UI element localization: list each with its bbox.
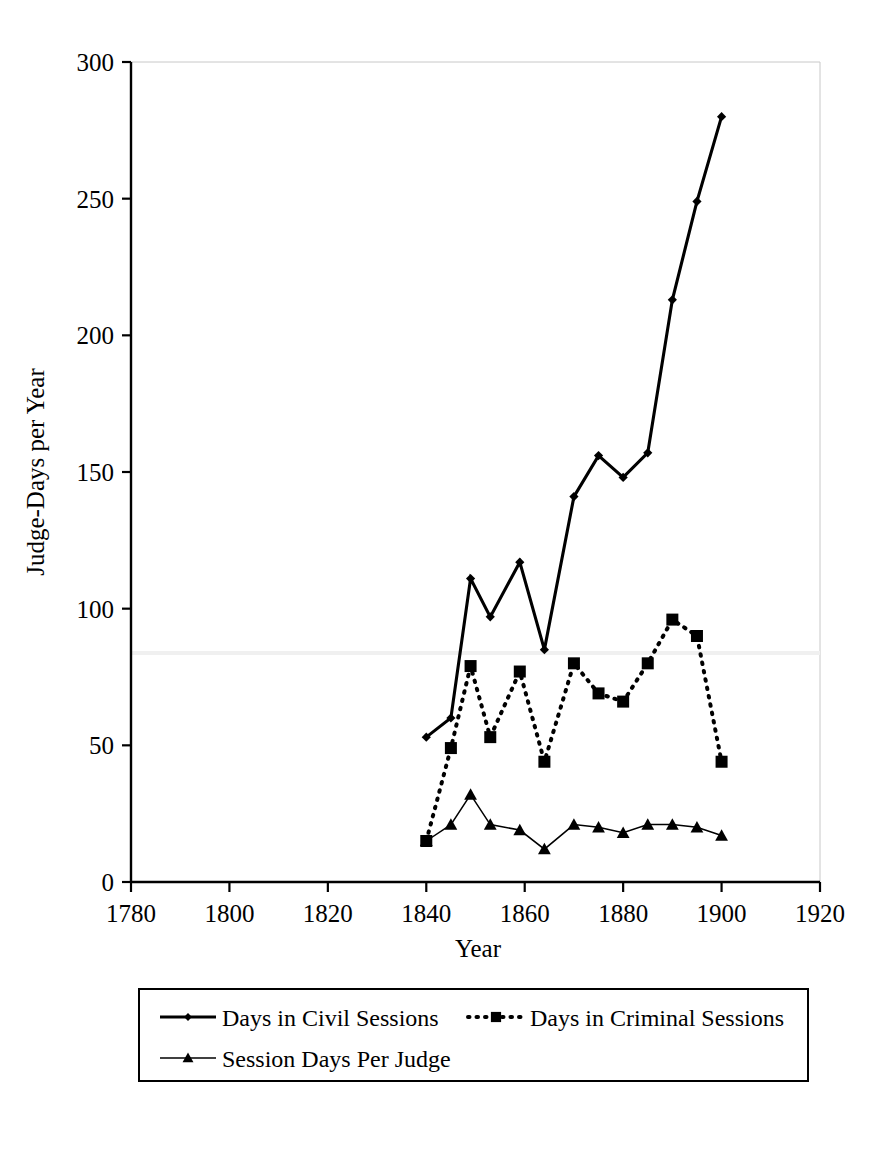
data-point-square (445, 742, 457, 754)
data-point-square (593, 687, 605, 699)
x-tick-label: 1920 (795, 900, 845, 927)
y-tick-label: 0 (102, 869, 115, 896)
y-tick-label: 150 (77, 459, 115, 486)
y-tick-label: 300 (77, 49, 115, 76)
y-tick-label: 100 (77, 596, 115, 623)
data-point-square (617, 696, 629, 708)
judge-days-line-chart: 050100150200250300 178018001820184018601… (0, 0, 891, 1154)
y-axis-title: Judge-Days per Year (22, 368, 49, 576)
data-point-square (538, 756, 550, 768)
x-tick-label: 1880 (598, 900, 648, 927)
x-tick-label: 1860 (500, 900, 550, 927)
data-point-square (568, 657, 580, 669)
data-point-square (691, 630, 703, 642)
data-point-square (465, 660, 477, 672)
data-point-square (484, 731, 496, 743)
chart-background (0, 0, 891, 1154)
x-axis-title: Year (455, 935, 502, 962)
x-tick-label: 1800 (204, 900, 254, 927)
y-tick-label: 200 (77, 322, 115, 349)
y-tick-label: 250 (77, 186, 115, 213)
chart-figure: 050100150200250300 178018001820184018601… (0, 0, 891, 1154)
x-tick-label: 1780 (106, 900, 156, 927)
legend-label: Days in Criminal Sessions (530, 1005, 784, 1031)
data-point-square (491, 1012, 501, 1022)
y-tick-label: 50 (89, 732, 114, 759)
x-tick-label: 1840 (401, 900, 451, 927)
data-point-square (514, 666, 526, 678)
legend-label: Session Days Per Judge (222, 1046, 451, 1072)
x-tick-label: 1900 (697, 900, 747, 927)
chart-legend: Days in Civil SessionsDays in Criminal S… (139, 989, 808, 1081)
data-point-square (716, 756, 728, 768)
legend-label: Days in Civil Sessions (222, 1005, 439, 1031)
data-point-square (666, 614, 678, 626)
data-point-square (642, 657, 654, 669)
x-tick-label: 1820 (303, 900, 353, 927)
